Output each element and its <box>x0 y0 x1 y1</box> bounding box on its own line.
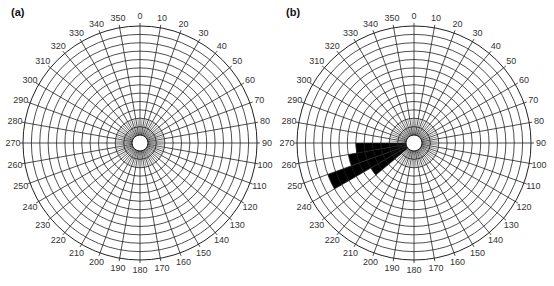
angle-tick-label: 280 <box>281 116 296 126</box>
angle-tick-label: 30 <box>198 28 208 38</box>
rose-panel-b: (b) 010203040506070809010011012013014015… <box>277 0 554 286</box>
radial-line <box>148 122 258 141</box>
radial-line <box>422 102 527 140</box>
radial-line <box>119 151 138 261</box>
angle-tick-label: 0 <box>411 11 416 21</box>
angle-tick-label: 80 <box>260 116 270 126</box>
angle-tick-label: 60 <box>519 75 529 85</box>
angle-tick-label: 210 <box>69 248 84 258</box>
angle-tick-label: 150 <box>470 248 485 258</box>
angle-tick-label: 160 <box>176 257 191 267</box>
angle-tick-label: 110 <box>252 181 266 191</box>
angle-tick-label: 90 <box>262 138 272 148</box>
radial-line <box>296 122 406 141</box>
radial-line <box>421 147 518 203</box>
angle-tick-label: 170 <box>429 263 444 273</box>
angle-tick-label: 320 <box>51 41 66 51</box>
angle-tick-label: 270 <box>5 138 20 148</box>
radial-line <box>417 151 455 256</box>
angle-tick-label: 350 <box>384 13 399 23</box>
angle-tick-label: 270 <box>279 138 294 148</box>
radial-line <box>141 151 160 261</box>
radial-line <box>141 25 160 135</box>
radial-line <box>354 39 410 136</box>
radial-line <box>422 146 527 184</box>
radial-line <box>27 146 132 184</box>
angle-tick-label: 260 <box>281 160 296 170</box>
radial-line <box>301 102 406 140</box>
radial-line <box>36 83 133 139</box>
angle-tick-label: 220 <box>51 235 66 245</box>
radial-line <box>420 148 506 220</box>
angle-tick-label: 260 <box>7 160 22 170</box>
angle-tick-label: 190 <box>110 263 125 273</box>
angle-tick-label: 20 <box>452 19 462 29</box>
radial-line <box>393 25 412 135</box>
radial-line <box>419 51 491 137</box>
angle-tick-label: 240 <box>22 202 37 212</box>
radial-line <box>415 151 434 261</box>
angle-tick-label: 240 <box>296 202 311 212</box>
angle-tick-label: 70 <box>528 95 538 105</box>
angle-tick-label: 230 <box>309 220 324 230</box>
angle-tick-label: 200 <box>89 257 104 267</box>
angle-tick-label: 340 <box>89 19 104 29</box>
angle-tick-label: 350 <box>110 13 125 23</box>
radial-line <box>48 66 134 138</box>
radial-line <box>146 66 232 138</box>
radial-line <box>27 102 132 140</box>
radial-line <box>144 39 200 136</box>
radial-line <box>63 51 135 137</box>
radial-line <box>22 122 132 141</box>
angle-tick-label: 0 <box>137 11 142 21</box>
radial-line <box>119 25 138 135</box>
angle-tick-label: 100 <box>532 160 547 170</box>
radial-line <box>22 144 132 163</box>
angle-tick-label: 190 <box>384 263 399 273</box>
angle-tick-label: 200 <box>363 257 378 267</box>
radial-line <box>422 122 532 141</box>
angle-tick-label: 170 <box>155 263 170 273</box>
radial-line <box>80 150 136 247</box>
radial-line <box>148 144 258 163</box>
radial-line <box>99 151 137 256</box>
radial-line <box>147 147 244 203</box>
angle-tick-label: 210 <box>343 248 358 258</box>
radial-line <box>48 148 134 220</box>
angle-tick-label: 220 <box>325 235 340 245</box>
center-hole <box>132 135 148 151</box>
radial-line <box>322 66 408 138</box>
angle-tick-label: 160 <box>450 257 465 267</box>
angle-tick-label: 80 <box>534 116 544 126</box>
center-hole <box>406 135 422 151</box>
radial-line <box>143 151 181 256</box>
radial-line <box>418 39 474 136</box>
angle-tick-label: 250 <box>13 181 28 191</box>
angle-tick-label: 50 <box>232 56 242 66</box>
radial-line <box>145 149 217 235</box>
angle-tick-label: 290 <box>287 95 302 105</box>
angle-tick-label: 130 <box>504 220 519 230</box>
angle-tick-label: 110 <box>526 181 540 191</box>
angle-tick-label: 310 <box>309 56 324 66</box>
angle-tick-label: 60 <box>245 75 255 85</box>
angle-tick-label: 130 <box>230 220 245 230</box>
angle-tick-label: 10 <box>157 13 167 23</box>
angle-tick-label: 300 <box>296 75 311 85</box>
radial-line <box>419 149 491 235</box>
radial-line <box>146 148 232 220</box>
angle-tick-label: 100 <box>258 160 273 170</box>
radial-line <box>80 39 136 136</box>
radial-line <box>415 25 434 135</box>
radial-line <box>147 83 244 139</box>
rose-diagram-b: 0102030405060708090100110120130140150160… <box>277 0 554 286</box>
angle-tick-label: 180 <box>406 265 421 275</box>
angle-tick-label: 180 <box>132 265 147 275</box>
radial-line <box>143 30 181 135</box>
radial-line <box>63 149 135 235</box>
angle-tick-label: 50 <box>506 56 516 66</box>
rose-panel-a: (a) 010203040506070809010011012013014015… <box>0 0 277 286</box>
radial-line <box>99 30 137 135</box>
radial-line <box>337 51 409 137</box>
radial-line <box>148 146 253 184</box>
